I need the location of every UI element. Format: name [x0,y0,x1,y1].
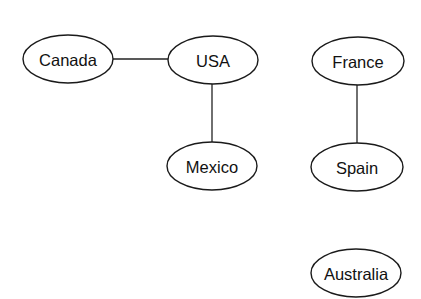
node-label: Spain [336,159,378,177]
nodes: CanadaUSAFranceMexicoSpainAustralia [23,35,404,297]
node-label: Australia [324,265,389,283]
node-spain: Spain [311,143,403,191]
country-border-graph: CanadaUSAFranceMexicoSpainAustralia [0,0,421,299]
node-mexico: Mexico [167,142,257,190]
node-label: France [332,53,383,71]
node-label: USA [196,52,230,70]
node-australia: Australia [311,249,401,297]
node-france: France [312,37,404,85]
node-label: Mexico [186,158,238,176]
node-usa: USA [168,36,258,84]
node-canada: Canada [23,35,113,83]
node-label: Canada [39,51,98,69]
